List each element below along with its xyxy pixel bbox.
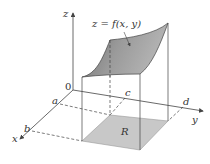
- dashed-a: [60, 104, 110, 115]
- double-integral-diagram: z = f(x, y) z x y 0 a b c d R: [0, 0, 210, 164]
- y-axis-label: y: [191, 114, 198, 125]
- tick-a: a: [52, 95, 58, 106]
- x-axis-label: x: [12, 133, 18, 144]
- tick-b: b: [24, 123, 30, 134]
- dashed-c: [110, 98, 125, 115]
- tick-d: d: [183, 96, 189, 107]
- dashed-d: [168, 107, 183, 121]
- surface-label: z = f(x, y): [91, 18, 141, 29]
- tick-c: c: [125, 87, 131, 98]
- surface: [82, 23, 168, 77]
- region-label: R: [120, 126, 129, 137]
- origin-label: 0: [65, 81, 71, 92]
- z-axis-label: z: [62, 8, 69, 19]
- dashed-b: [32, 131, 82, 141]
